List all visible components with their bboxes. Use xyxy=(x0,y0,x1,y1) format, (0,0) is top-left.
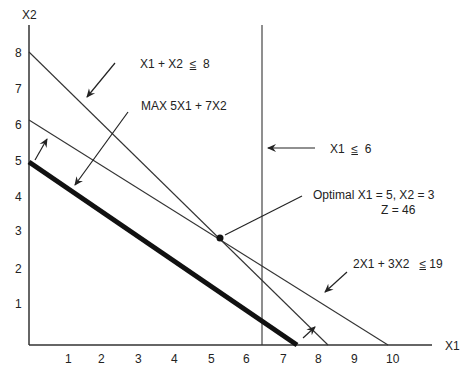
objective-label: MAX 5X1 + 7X2 xyxy=(141,99,227,113)
y-tick-1: 1 xyxy=(15,297,22,311)
c2-rhs: 19 xyxy=(429,257,442,271)
c2-op: ≤ xyxy=(419,257,426,271)
y-tick-3: 3 xyxy=(15,224,22,238)
optimal-point xyxy=(217,235,224,242)
c3-rhs: 6 xyxy=(365,142,372,156)
c1-lhs: X1 + X2 xyxy=(140,57,183,71)
y-tick-8: 8 xyxy=(15,46,22,60)
arrow-c2 xyxy=(325,272,347,292)
x-tick-2: 2 xyxy=(98,352,105,366)
x-tick-5: 5 xyxy=(208,352,215,366)
y-tick-4: 4 xyxy=(15,190,22,204)
constraint-line-x1-plus-x2 xyxy=(29,52,328,345)
optimal-label-line1: Optimal X1 = 5, X2 = 3 xyxy=(313,188,434,202)
y-tick-6: 6 xyxy=(15,118,22,132)
arrow-c1 xyxy=(87,63,115,97)
y-tick-2: 2 xyxy=(15,262,22,276)
arrow-objective-up xyxy=(35,139,47,160)
constraint-label-c3: X1 ≤ 6 xyxy=(330,142,371,156)
c1-op: ≤ xyxy=(190,57,197,71)
x-tick-1: 1 xyxy=(65,352,72,366)
arrow-objective-right xyxy=(303,327,315,338)
optimal-label-line2: Z = 46 xyxy=(381,203,415,217)
x-tick-7: 7 xyxy=(280,352,287,366)
objective-line xyxy=(29,162,297,345)
y-tick-7: 7 xyxy=(15,82,22,96)
x-tick-4: 4 xyxy=(171,352,178,366)
x-tick-6: 6 xyxy=(243,352,250,366)
c3-op: ≤ xyxy=(351,142,358,156)
c2-lhs: 2X1 + 3X2 xyxy=(353,257,409,271)
y-tick-5: 5 xyxy=(15,154,22,168)
x-tick-8: 8 xyxy=(315,352,322,366)
constraint-label-c2: 2X1 + 3X2 ≤ 19 xyxy=(353,257,443,271)
c1-rhs: 8 xyxy=(203,57,210,71)
x-tick-10: 10 xyxy=(386,352,399,366)
y-axis-label: X2 xyxy=(22,8,37,22)
constraint-label-c1: X1 + X2 ≤ 8 xyxy=(140,57,210,71)
c3-lhs: X1 xyxy=(330,142,345,156)
arrow-optimal xyxy=(225,196,302,235)
x-tick-3: 3 xyxy=(135,352,142,366)
x-axis-label: X1 xyxy=(445,339,460,353)
x-tick-9: 9 xyxy=(351,352,358,366)
